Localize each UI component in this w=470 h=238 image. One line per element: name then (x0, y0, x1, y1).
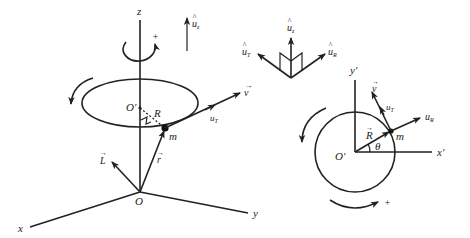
right-angle-mark (141, 117, 151, 124)
uR-label: uR (425, 111, 434, 123)
physics-diagram: z x y O + uz ^ O' R m v → uT r → (0, 0, 470, 238)
x-axis-label: x (17, 222, 23, 234)
y-axis-label: y (252, 207, 258, 219)
uT-label: uT (386, 102, 395, 113)
y-prime-label: y' (349, 64, 358, 76)
vector-arrow-mark: → (100, 149, 107, 157)
vector-arrow-mark: → (245, 81, 253, 90)
y-axis (140, 192, 248, 213)
rotation-sign: + (384, 197, 391, 208)
rotation-arrow-left-icon (302, 108, 326, 142)
left-3d-diagram: z x y O + uz ^ O' R m v → uT r → (17, 5, 258, 234)
vector-arrow-mark: → (372, 78, 379, 86)
right-plane-diagram: y' x' O' R → θ m v → uT uR + (302, 64, 445, 208)
vector-arrow-mark: → (157, 149, 164, 157)
mass-label: m (169, 130, 177, 142)
unit-vector-triad: uz uT uR ^ ^ ^ (242, 17, 337, 78)
tangent-unit-label: uT (210, 113, 219, 124)
z-axis-label: z (136, 5, 142, 17)
rotation-sign: + (152, 31, 159, 42)
radius-label: R (153, 107, 161, 119)
center-prime-label: O' (335, 150, 346, 162)
mass-label: m (396, 130, 404, 142)
tangent-unit-arrow (205, 105, 215, 110)
angle-arc (368, 144, 370, 152)
theta-label: θ (375, 140, 381, 152)
center-label: O' (126, 101, 137, 113)
x-axis (30, 192, 140, 227)
uR-vector (391, 118, 420, 131)
vector-arrow-mark: → (366, 124, 373, 132)
angular-momentum-vector (112, 162, 140, 192)
origin-label: O (135, 195, 143, 207)
rotation-arrow-bottom-icon (330, 200, 378, 208)
velocity-arrow (165, 93, 240, 128)
x-prime-label: x' (436, 146, 445, 158)
